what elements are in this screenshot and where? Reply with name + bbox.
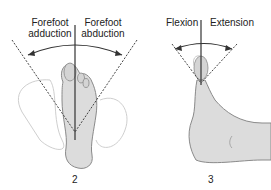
label-extension: Extension [209,17,255,28]
label-forefoot-adduction-line1: Forefoot [26,17,74,28]
panel-number-2: 2 [72,174,78,185]
panel-number-3: 3 [208,174,214,185]
label-forefoot-abduction-line2: abduction [79,28,127,39]
panel-2-foot-figure [12,25,137,168]
label-forefoot-abduction: Forefoot abduction [79,17,127,39]
label-forefoot-adduction-line2: adduction [26,28,74,39]
label-flexion: Flexion [166,17,198,28]
panel-3-foot-figure [172,20,271,163]
label-forefoot-adduction: Forefoot adduction [26,17,74,39]
label-forefoot-abduction-line1: Forefoot [79,17,127,28]
